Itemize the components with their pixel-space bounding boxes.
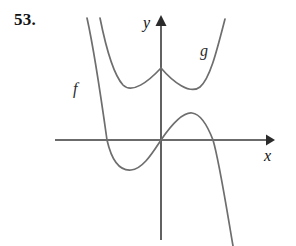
y-axis-arrowhead xyxy=(156,15,167,26)
x-axis xyxy=(55,135,275,146)
graph-figure: y x f g xyxy=(0,0,296,246)
y-axis-label: y xyxy=(141,14,151,32)
curve-label-f: f xyxy=(73,80,80,98)
x-axis-label: x xyxy=(263,147,271,164)
y-axis xyxy=(156,15,167,240)
curve-label-g: g xyxy=(200,42,208,60)
figure-page: 53. y x f g xyxy=(0,0,296,246)
x-axis-arrowhead xyxy=(266,135,275,146)
